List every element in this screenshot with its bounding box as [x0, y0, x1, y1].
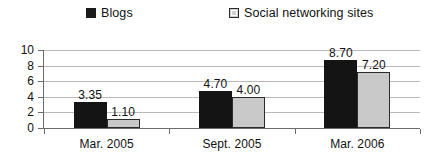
x-category-label: Sept. 2005 — [202, 137, 261, 151]
plot-wrapper: 0246810 3.351.104.704.008.707.20 Mar. 20… — [0, 0, 439, 166]
y-tick-label: 4 — [10, 91, 34, 103]
y-tick-label-box: 4 — [10, 97, 34, 98]
y-tick-label-box: 10 — [10, 50, 34, 51]
gridline — [44, 50, 420, 51]
x-tick-mark — [295, 129, 296, 134]
x-category-label: Mar. 2006 — [330, 137, 384, 151]
x-category-label: Mar. 2005 — [80, 137, 134, 151]
y-tick-label: 0 — [10, 122, 34, 134]
x-axis-line — [43, 128, 420, 129]
plot-area: 3.351.104.704.008.707.20 — [44, 50, 420, 128]
bar — [199, 91, 232, 128]
bar-value-label: 3.35 — [78, 88, 102, 102]
y-tick-label-box: 2 — [10, 112, 34, 113]
y-tick-mark — [38, 81, 43, 82]
bar — [232, 97, 265, 128]
y-tick-mark — [38, 128, 43, 129]
bar-value-label: 4.70 — [204, 77, 228, 91]
y-tick-label: 6 — [10, 75, 34, 87]
y-tick-label-box: 8 — [10, 66, 34, 67]
x-tick-mark — [44, 129, 45, 134]
x-tick-mark — [420, 129, 421, 134]
bar-chart: Blogs Social networking sites 0246810 3.… — [0, 0, 439, 166]
y-tick-label: 10 — [10, 44, 34, 56]
y-tick-label: 2 — [10, 106, 34, 118]
x-tick-mark — [169, 129, 170, 134]
bar-value-label: 8.70 — [329, 46, 353, 60]
bar — [107, 119, 140, 128]
y-tick-mark — [38, 66, 43, 67]
y-tick-mark — [38, 50, 43, 51]
y-tick-mark — [38, 112, 43, 113]
bar — [74, 102, 107, 128]
y-tick-label-box: 0 — [10, 128, 34, 129]
bar-value-label: 1.10 — [111, 105, 135, 119]
bar — [324, 60, 357, 128]
bar-value-label: 7.20 — [362, 58, 386, 72]
bar — [357, 72, 390, 128]
y-tick-label-box: 6 — [10, 81, 34, 82]
bar-value-label: 4.00 — [237, 83, 261, 97]
y-tick-mark — [38, 97, 43, 98]
y-tick-label: 8 — [10, 60, 34, 72]
